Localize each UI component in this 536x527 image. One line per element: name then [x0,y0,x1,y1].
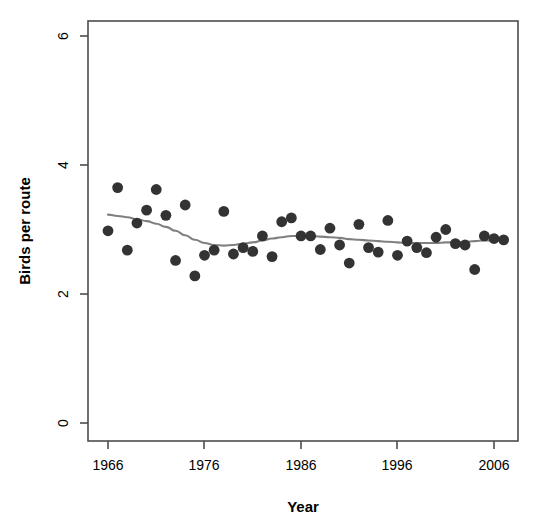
data-point [382,215,393,226]
data-point [354,219,365,230]
data-point [161,210,172,221]
data-point [189,271,200,282]
scatter-plot-figure: 6 4 2 0 Birds per route 1966 1976 1986 1… [0,0,536,527]
data-point [180,200,191,211]
x-tick-label-1986: 1986 [285,457,316,473]
data-point [305,231,316,242]
data-point [315,244,326,255]
data-point [450,238,461,249]
data-point [469,264,480,275]
x-tick-label-1976: 1976 [188,457,219,473]
data-points-layer [103,182,509,281]
data-point [141,205,152,216]
data-point [334,240,345,251]
x-axis-ticks [108,441,494,449]
data-point [421,247,432,258]
data-point [373,247,384,258]
y-axis-tick-labels: 6 4 2 0 [55,32,71,427]
data-point [218,206,229,217]
data-point [151,184,162,195]
data-point [363,242,374,253]
y-tick-label-0: 0 [55,419,71,427]
x-tick-label-1966: 1966 [92,457,123,473]
data-point [460,240,471,251]
data-point [170,255,181,266]
data-point [267,251,278,262]
data-point [132,218,143,229]
data-point [296,231,307,242]
y-axis-ticks [80,36,88,423]
data-point [112,182,123,193]
data-point [479,231,490,242]
data-point [103,225,114,236]
data-point [247,246,258,257]
data-point [209,245,220,256]
data-point [402,236,413,247]
data-point [238,242,249,253]
y-tick-label-4: 4 [55,161,71,169]
data-point [344,258,355,269]
x-axis-title: Year [287,498,319,515]
data-point [122,245,133,256]
x-tick-label-1996: 1996 [381,457,412,473]
data-point [228,249,239,260]
data-point [489,233,500,244]
x-axis-tick-labels: 1966 1976 1986 1996 2006 [92,457,509,473]
data-point [411,242,422,253]
y-axis-title: Birds per route [16,177,33,285]
y-tick-label-6: 6 [55,32,71,40]
data-point [498,234,509,245]
y-tick-label-2: 2 [55,290,71,298]
x-tick-label-2006: 2006 [478,457,509,473]
data-point [325,223,336,234]
data-point [199,250,210,261]
data-point [257,231,268,242]
data-point [431,232,442,243]
data-point [276,216,287,227]
data-point [440,224,451,235]
data-point [286,212,297,223]
data-point [392,250,403,261]
